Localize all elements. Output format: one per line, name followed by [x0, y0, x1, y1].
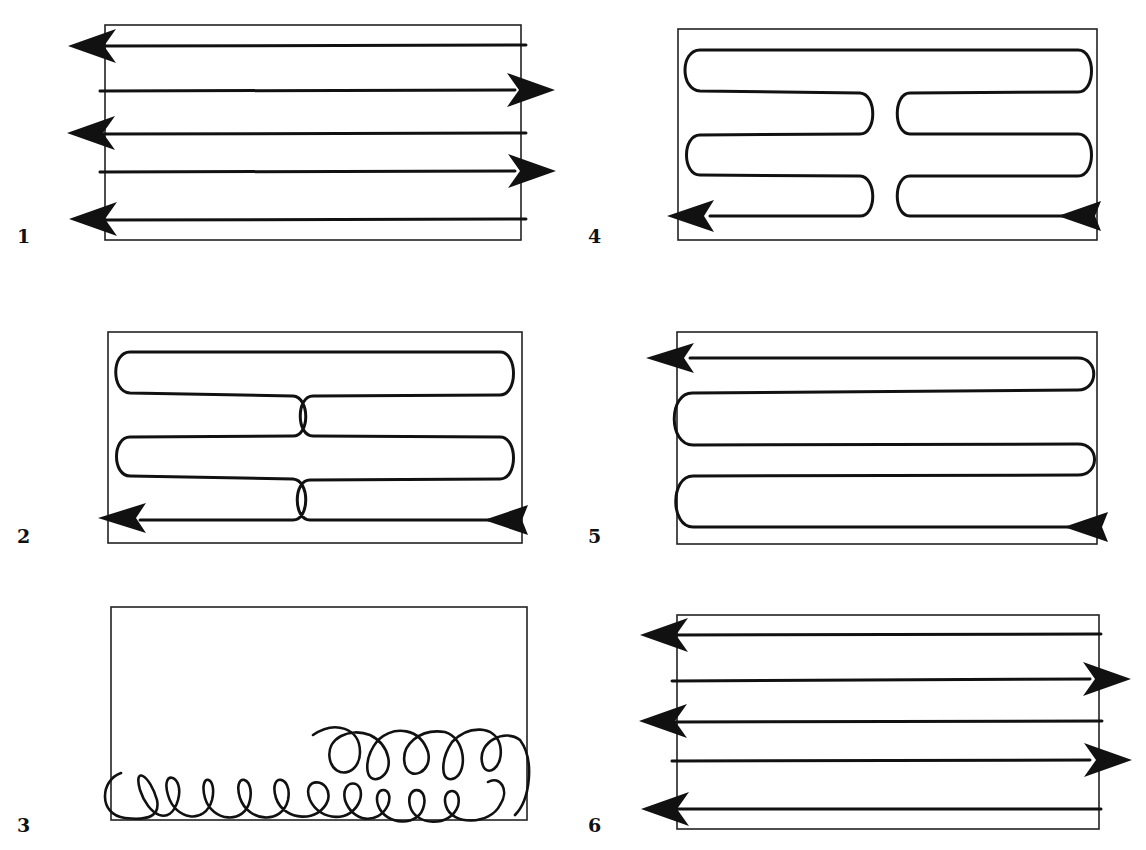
diagram-canvas	[0, 0, 1146, 850]
panel-5-label: 5	[588, 527, 601, 546]
panel-1-line-3	[67, 116, 526, 150]
panel-1-label: 1	[17, 227, 30, 246]
panel-1-line-4	[100, 154, 556, 188]
panel-3-loop-path	[105, 727, 529, 821]
arrow-start-icon	[1058, 201, 1101, 231]
panel-5-serpentine	[674, 358, 1094, 527]
panel-3	[105, 607, 529, 822]
panel-6-line-3	[639, 704, 1102, 738]
arrow-left-icon	[667, 200, 714, 232]
panel-4	[667, 29, 1101, 240]
panel-3-frame	[111, 607, 527, 820]
panel-6-line-5	[641, 792, 1101, 826]
panel-1	[67, 25, 556, 240]
panel-3-label: 3	[17, 816, 30, 835]
panel-6-line-1	[640, 618, 1101, 652]
panel-2-label: 2	[17, 527, 30, 546]
panel-5	[646, 332, 1108, 544]
panel-1-line-1	[68, 29, 526, 63]
panel-4-label: 4	[588, 227, 601, 246]
panel-1-line-2	[100, 73, 555, 107]
panel-6-line-2	[672, 662, 1131, 696]
arrow-start-icon	[1064, 512, 1108, 542]
panel-5-frame	[677, 332, 1097, 544]
panel-6	[639, 615, 1132, 829]
panel-1-line-5	[69, 202, 526, 236]
arrow-start-icon	[484, 505, 528, 535]
panel-6-line-4	[672, 743, 1132, 777]
arrow-left-icon	[646, 343, 694, 373]
panel-2-serpentine	[116, 352, 514, 520]
arrow-left-icon	[98, 503, 146, 533]
panel-2	[98, 332, 528, 543]
panel-4-right-serpentine	[685, 50, 1092, 216]
panel-6-label: 6	[588, 816, 601, 835]
